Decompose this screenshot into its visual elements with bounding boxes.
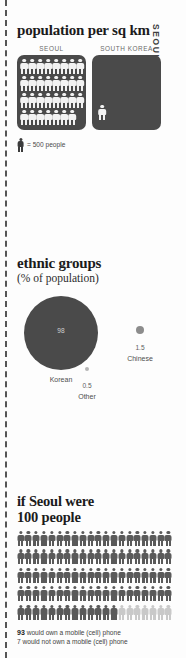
person-icon xyxy=(40,586,47,601)
person-icon xyxy=(110,531,117,546)
person-icon xyxy=(28,76,36,91)
person-icon xyxy=(17,586,24,601)
person-icon xyxy=(71,586,78,601)
person-icon xyxy=(33,605,40,620)
person-icon xyxy=(157,531,164,546)
section-if-seoul-were-100-people: if Seoul were 100 people 93 would own a … xyxy=(17,494,177,646)
person-icon xyxy=(64,531,71,546)
person-icon xyxy=(79,531,86,546)
bubble-value-chinese: 1.5 xyxy=(120,344,160,351)
person-icon xyxy=(17,605,24,620)
bubble-value-korean: 98 xyxy=(24,327,98,334)
person-icon xyxy=(33,586,40,601)
person-icon xyxy=(48,605,55,620)
person-icon xyxy=(79,568,86,583)
person-icon xyxy=(118,568,125,583)
person-icon xyxy=(76,76,84,91)
population-label-south-korea: SOUTH KOREA xyxy=(92,45,161,52)
left-dashed-divider xyxy=(5,0,7,658)
person-icon xyxy=(17,568,24,583)
person-icon xyxy=(157,568,164,583)
person-icon xyxy=(87,605,94,620)
person-icon xyxy=(20,93,28,108)
hundred-title-line2: 100 people xyxy=(17,509,81,525)
person-icon xyxy=(68,110,76,125)
ethnic-bubble-chart: 98 Korean 1.5 Chinese 0.5 Other xyxy=(17,294,169,434)
person-icon xyxy=(44,93,52,108)
bubble-label-other: Other xyxy=(67,393,107,400)
hundred-note-own-text: would own a mobile (cell) phone xyxy=(25,629,121,636)
person-icon xyxy=(25,605,32,620)
person-icon xyxy=(126,586,133,601)
person-icon xyxy=(142,549,149,564)
person-icon xyxy=(60,93,68,108)
section-ethnic-groups: ethnic groups (% of population) 98 Korea… xyxy=(17,255,169,434)
person-icon xyxy=(110,568,117,583)
person-icon xyxy=(103,586,110,601)
person-icon xyxy=(87,531,94,546)
person-icon xyxy=(87,586,94,601)
person-icon xyxy=(126,605,133,620)
person-icon xyxy=(56,531,63,546)
person-icon xyxy=(126,568,133,583)
person-icon xyxy=(103,549,110,564)
ethnic-subtitle: (% of population) xyxy=(17,272,169,285)
person-icon xyxy=(165,605,172,620)
person-icon xyxy=(95,531,102,546)
person-icon xyxy=(56,549,63,564)
person-icon xyxy=(79,586,86,601)
hundred-note-own: 93 would own a mobile (cell) phone xyxy=(17,628,177,637)
person-icon xyxy=(17,138,24,152)
person-icon xyxy=(142,605,149,620)
population-figure-grid-south-korea xyxy=(98,105,106,124)
person-icon xyxy=(118,605,125,620)
person-icon xyxy=(36,59,44,74)
section-population-per-sq-km: population per sq km SEOUL SOUTH KOREA =… xyxy=(17,22,169,152)
hundred-notes: 93 would own a mobile (cell) phone 7 wou… xyxy=(17,628,177,646)
person-icon xyxy=(126,549,133,564)
person-icon xyxy=(165,549,172,564)
person-icon xyxy=(134,605,141,620)
person-icon xyxy=(165,531,172,546)
ethnic-title: ethnic groups xyxy=(17,255,169,271)
person-icon xyxy=(76,93,84,108)
person-icon xyxy=(134,531,141,546)
person-icon xyxy=(25,531,32,546)
person-icon xyxy=(71,531,78,546)
population-title: population per sq km xyxy=(17,22,169,38)
person-icon xyxy=(64,568,71,583)
hundred-title-line1: if Seoul were xyxy=(17,493,94,509)
population-columns: SEOUL SOUTH KOREA xyxy=(17,45,169,130)
person-icon xyxy=(64,605,71,620)
person-icon xyxy=(149,531,156,546)
person-icon xyxy=(44,59,52,74)
person-icon xyxy=(157,605,164,620)
person-icon xyxy=(118,531,125,546)
person-icon xyxy=(56,568,63,583)
bubble-label-chinese: Chinese xyxy=(115,355,165,362)
infographic-page: SEOUL TODAY population per sq km SEOUL S… xyxy=(0,0,186,658)
person-icon xyxy=(28,93,36,108)
person-icon xyxy=(25,549,32,564)
person-icon xyxy=(134,549,141,564)
person-icon xyxy=(60,59,68,74)
person-icon xyxy=(157,549,164,564)
person-icon xyxy=(126,531,133,546)
person-icon xyxy=(103,531,110,546)
person-icon xyxy=(44,110,52,125)
person-icon xyxy=(76,59,84,74)
bubble-other xyxy=(85,367,89,371)
person-icon xyxy=(71,549,78,564)
person-icon xyxy=(79,605,86,620)
person-icon xyxy=(48,531,55,546)
population-legend-text: = 500 people xyxy=(27,141,65,148)
population-label-seoul: SEOUL xyxy=(17,45,86,52)
person-icon xyxy=(149,586,156,601)
person-icon xyxy=(134,568,141,583)
person-icon xyxy=(28,59,36,74)
person-icon xyxy=(110,549,117,564)
person-icon xyxy=(95,586,102,601)
person-icon xyxy=(48,586,55,601)
person-icon xyxy=(17,549,24,564)
hundred-note-own-number: 93 xyxy=(17,629,25,636)
